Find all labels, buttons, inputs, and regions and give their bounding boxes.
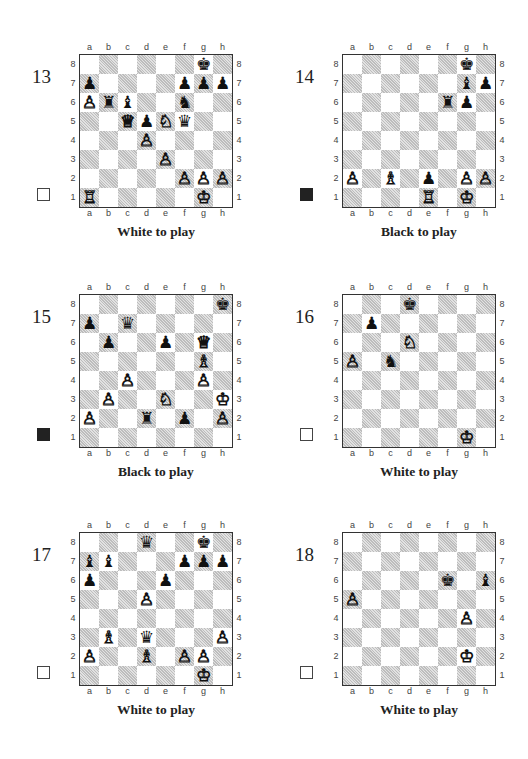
square-d4[interactable] — [400, 609, 419, 628]
square-h4[interactable] — [213, 371, 232, 390]
square-e2[interactable] — [156, 169, 175, 188]
square-e7[interactable] — [419, 314, 438, 333]
square-f1[interactable] — [175, 666, 194, 685]
white-pawn-icon[interactable]: ♙ — [215, 628, 230, 647]
square-a3[interactable] — [80, 628, 99, 647]
square-f3[interactable] — [175, 150, 194, 169]
square-f6[interactable]: ♜ — [438, 93, 457, 112]
square-h8[interactable] — [476, 55, 495, 74]
square-g4[interactable] — [457, 371, 476, 390]
square-a7[interactable] — [343, 74, 362, 93]
square-f7[interactable] — [438, 314, 457, 333]
black-pawn-icon[interactable]: ♟ — [139, 112, 154, 131]
square-c6[interactable] — [118, 571, 137, 590]
square-f5[interactable] — [438, 352, 457, 371]
square-g6[interactable] — [457, 571, 476, 590]
square-f4[interactable] — [175, 371, 194, 390]
square-d7[interactable] — [400, 74, 419, 93]
square-f7[interactable]: ♟ — [175, 552, 194, 571]
square-b1[interactable] — [362, 666, 381, 685]
black-king-icon[interactable]: ♚ — [215, 295, 230, 314]
square-h2[interactable]: ♙ — [476, 169, 495, 188]
white-king-icon[interactable]: ♔ — [215, 390, 230, 409]
black-pawn-icon[interactable]: ♟ — [82, 571, 97, 590]
black-pawn-icon[interactable]: ♟ — [177, 74, 192, 93]
black-pawn-icon[interactable]: ♟ — [215, 74, 230, 93]
square-g8[interactable] — [194, 295, 213, 314]
square-d1[interactable] — [400, 188, 419, 207]
square-g8[interactable]: ♚ — [194, 55, 213, 74]
square-e4[interactable] — [419, 609, 438, 628]
square-f4[interactable] — [438, 131, 457, 150]
square-b4[interactable] — [362, 131, 381, 150]
square-e5[interactable] — [419, 590, 438, 609]
square-f4[interactable] — [175, 131, 194, 150]
square-c8[interactable] — [118, 55, 137, 74]
square-e3[interactable] — [419, 628, 438, 647]
square-d5[interactable] — [137, 352, 156, 371]
square-e3[interactable]: ♘ — [156, 390, 175, 409]
square-d8[interactable]: ♛ — [137, 533, 156, 552]
square-e2[interactable] — [156, 409, 175, 428]
square-c6[interactable]: ♝ — [118, 93, 137, 112]
square-d1[interactable] — [137, 188, 156, 207]
square-a2[interactable] — [80, 169, 99, 188]
square-e2[interactable] — [419, 647, 438, 666]
square-h3[interactable] — [213, 150, 232, 169]
square-c1[interactable] — [381, 428, 400, 447]
square-a3[interactable] — [80, 390, 99, 409]
black-pawn-icon[interactable]: ♟ — [82, 74, 97, 93]
square-d4[interactable] — [137, 609, 156, 628]
square-d3[interactable] — [137, 150, 156, 169]
square-c7[interactable] — [381, 314, 400, 333]
square-b2[interactable] — [362, 409, 381, 428]
square-c7[interactable]: ♛ — [118, 314, 137, 333]
square-f8[interactable] — [438, 533, 457, 552]
square-c4[interactable] — [381, 371, 400, 390]
square-f8[interactable] — [438, 55, 457, 74]
square-d8[interactable]: ♚ — [400, 295, 419, 314]
square-d6[interactable] — [137, 571, 156, 590]
square-g4[interactable]: ♙ — [194, 371, 213, 390]
square-b2[interactable] — [99, 409, 118, 428]
square-a8[interactable] — [343, 533, 362, 552]
square-b7[interactable]: ♝ — [99, 552, 118, 571]
square-g4[interactable] — [194, 131, 213, 150]
square-h2[interactable] — [213, 647, 232, 666]
white-pawn-icon[interactable]: ♙ — [345, 590, 360, 609]
square-c4[interactable] — [118, 609, 137, 628]
black-rook-icon[interactable]: ♜ — [139, 409, 154, 428]
square-d2[interactable]: ♗ — [137, 647, 156, 666]
square-e1[interactable] — [156, 188, 175, 207]
square-e3[interactable] — [419, 390, 438, 409]
square-f6[interactable] — [175, 333, 194, 352]
square-f7[interactable] — [438, 74, 457, 93]
square-e6[interactable]: ♟ — [156, 571, 175, 590]
square-f3[interactable] — [438, 628, 457, 647]
white-pawn-icon[interactable]: ♙ — [120, 371, 135, 390]
square-b4[interactable] — [99, 371, 118, 390]
square-c4[interactable] — [381, 131, 400, 150]
square-b2[interactable] — [99, 169, 118, 188]
square-g2[interactable]: ♙ — [457, 169, 476, 188]
square-g1[interactable]: ♔ — [457, 188, 476, 207]
square-h7[interactable] — [476, 314, 495, 333]
square-g8[interactable]: ♚ — [194, 533, 213, 552]
square-d4[interactable]: ♙ — [137, 131, 156, 150]
square-f5[interactable] — [175, 352, 194, 371]
square-d4[interactable] — [400, 371, 419, 390]
square-c7[interactable] — [118, 552, 137, 571]
square-b3[interactable]: ♙ — [99, 390, 118, 409]
square-h6[interactable] — [476, 333, 495, 352]
square-d7[interactable] — [137, 552, 156, 571]
square-d7[interactable] — [137, 314, 156, 333]
square-a8[interactable] — [80, 295, 99, 314]
square-b6[interactable] — [362, 333, 381, 352]
square-c8[interactable] — [381, 295, 400, 314]
white-pawn-icon[interactable]: ♙ — [459, 609, 474, 628]
black-pawn-icon[interactable]: ♟ — [158, 571, 173, 590]
square-b4[interactable] — [362, 609, 381, 628]
square-a3[interactable] — [80, 150, 99, 169]
square-h1[interactable] — [476, 666, 495, 685]
square-f5[interactable] — [438, 112, 457, 131]
